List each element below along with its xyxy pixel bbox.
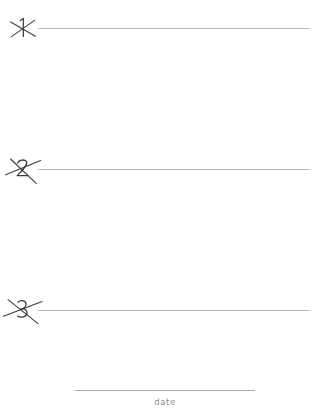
date-field[interactable]: date xyxy=(75,390,255,407)
line-number-marker-3[interactable]: 3 xyxy=(2,291,46,331)
writing-rule-line xyxy=(38,169,310,170)
numbered-line-row: 2 xyxy=(0,150,329,190)
numbered-line-row: 1 xyxy=(0,9,329,49)
line-number-marker-2[interactable]: 2 xyxy=(2,150,46,190)
line-number-marker-1[interactable]: 1 xyxy=(2,9,46,49)
writing-rule-line xyxy=(38,310,310,311)
worksheet-page: 1 2 3 xyxy=(0,0,329,419)
numbered-line-row: 3 xyxy=(0,291,329,331)
date-input-line[interactable] xyxy=(75,390,255,391)
writing-rule-line xyxy=(38,28,310,29)
date-field-label: date xyxy=(75,397,255,407)
